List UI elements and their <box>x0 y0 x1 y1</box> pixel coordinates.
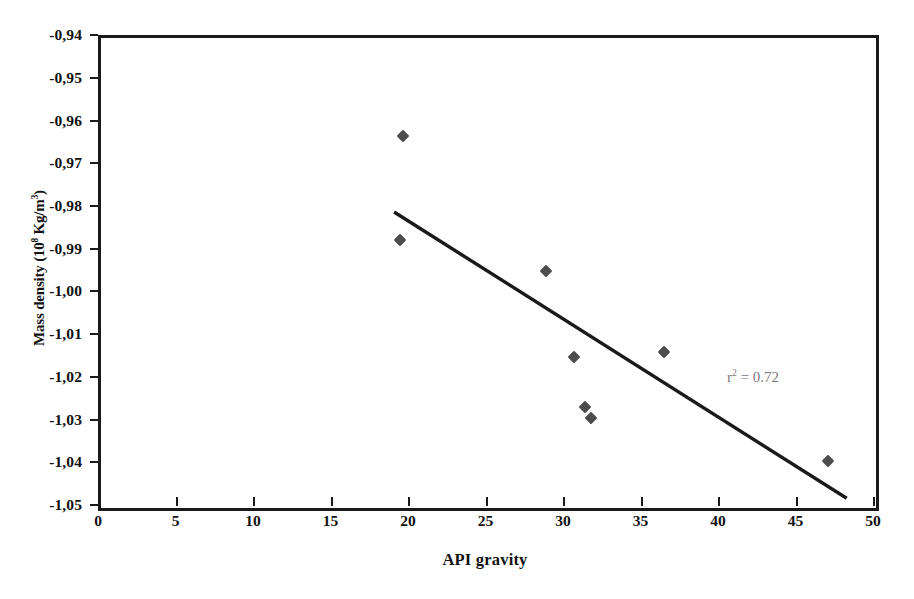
x-tick-label: 20 <box>400 512 416 530</box>
x-tick-label: 50 <box>865 512 881 530</box>
y-tick-label: -1,04 <box>49 453 82 471</box>
y-tick-mark <box>90 333 98 335</box>
x-tick-label: 40 <box>710 512 726 530</box>
y-tick-mark <box>90 290 98 292</box>
y-tick-label: -1,05 <box>49 496 82 514</box>
y-tick-label: -1,01 <box>49 325 82 343</box>
x-tick-label: 35 <box>633 512 649 530</box>
y-tick-mark <box>90 120 98 122</box>
x-axis-tick-labels: 0 5 10 15 20 25 30 35 40 45 50 <box>98 512 873 538</box>
y-axis-title-exponent-3: 3 <box>30 195 40 199</box>
y-axis-title-mid: Kg/m <box>31 199 47 238</box>
y-axis-title-lead: Mass density (10 <box>31 242 47 345</box>
r-squared-value: = 0.72 <box>737 369 779 385</box>
x-tick-label: 15 <box>323 512 339 530</box>
data-series-layer <box>98 35 873 505</box>
y-tick-label: -0,99 <box>49 240 82 258</box>
x-tick-label: 5 <box>172 512 180 530</box>
y-tick-mark <box>90 248 98 250</box>
y-tick-mark <box>90 376 98 378</box>
y-axis-title-tail: ) <box>31 190 47 195</box>
y-tick-mark <box>90 77 98 79</box>
y-tick-label: -0,98 <box>49 197 82 215</box>
x-tick-label: 45 <box>788 512 804 530</box>
y-tick-label: -0,97 <box>49 154 82 172</box>
y-tick-label: -0,94 <box>49 26 82 44</box>
trendline <box>98 35 873 505</box>
y-tick-mark <box>90 504 98 506</box>
y-tick-label: -0,96 <box>49 112 82 130</box>
x-tick-mark <box>873 497 875 506</box>
y-tick-mark <box>90 34 98 36</box>
y-tick-label: -1,00 <box>49 282 82 300</box>
x-tick-label: 30 <box>555 512 571 530</box>
y-tick-label: -1,02 <box>49 368 82 386</box>
x-tick-label: 10 <box>245 512 261 530</box>
x-tick-label: 0 <box>94 512 102 530</box>
y-axis-title-exponent-8: 8 <box>30 238 40 242</box>
y-tick-mark <box>90 461 98 463</box>
y-axis-title-text: Mass density (108 Kg/m3) <box>30 190 48 346</box>
y-tick-mark <box>90 162 98 164</box>
x-axis-title-text: API gravity <box>442 550 527 570</box>
y-tick-label: -1,03 <box>49 411 82 429</box>
r-squared-annotation: r2 = 0.72 <box>727 367 779 386</box>
x-tick-label: 25 <box>478 512 494 530</box>
y-tick-mark <box>90 419 98 421</box>
y-tick-mark <box>90 205 98 207</box>
y-tick-label: -0,95 <box>49 69 82 87</box>
chart-figure: -0,94 -0,95 -0,96 -0,97 -0,98 -0,99 -1,0… <box>0 0 914 599</box>
x-axis-title: API gravity <box>0 550 914 570</box>
y-axis-title: Mass density (108 Kg/m3) <box>24 105 54 431</box>
